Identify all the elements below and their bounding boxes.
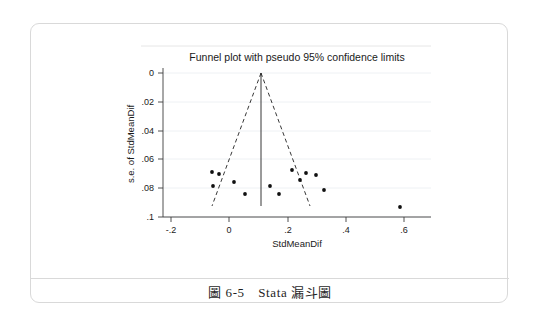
y-tick-label: .04: [141, 126, 154, 136]
y-tick-label: .08: [141, 183, 154, 193]
gridlines: [163, 73, 431, 217]
data-point: [304, 171, 308, 175]
x-tick-label: .2: [284, 225, 292, 235]
data-point: [268, 184, 272, 188]
data-point: [211, 184, 215, 188]
x-tick-label: .6: [400, 225, 408, 235]
figure-caption: 圖 6-5 Stata 漏斗圖: [31, 282, 509, 301]
caption-divider: [31, 278, 509, 279]
y-axis-title: s.e. of StdMeanDif: [125, 105, 136, 184]
data-point: [217, 172, 221, 176]
y-tick-label: .06: [141, 154, 154, 164]
data-point: [243, 192, 247, 196]
data-point: [290, 168, 294, 172]
x-tick-label: -.2: [166, 225, 177, 235]
x-tick-label: .4: [342, 225, 350, 235]
funnel-plot-figure: 0 .02 .04 .06 .08 .1 -.2 0 .2 .4 .6 StdM…: [31, 24, 509, 252]
y-tick-label: 0: [149, 68, 154, 78]
data-point: [398, 205, 402, 209]
y-axis-tick-labels: 0 .02 .04 .06 .08 .1: [141, 68, 154, 222]
data-point: [298, 178, 302, 182]
data-point: [232, 180, 236, 184]
x-axis-tick-labels: -.2 0 .2 .4 .6: [166, 225, 408, 235]
plot-title: Funnel plot with pseudo 95% confidence l…: [189, 51, 404, 63]
data-point: [277, 192, 281, 196]
data-point: [314, 173, 318, 177]
y-tick-label: .02: [141, 97, 154, 107]
data-point: [322, 188, 326, 192]
y-tick-label: .1: [146, 212, 154, 222]
x-tick-label: 0: [226, 225, 231, 235]
x-axis-title: StdMeanDif: [272, 238, 322, 249]
funnel-plot-svg: 0 .02 .04 .06 .08 .1 -.2 0 .2 .4 .6 StdM…: [31, 24, 509, 252]
confidence-limit-left-line: [212, 73, 261, 206]
y-axis-ticks: [158, 73, 163, 217]
x-axis-ticks: [171, 217, 404, 222]
figure-card: 0 .02 .04 .06 .08 .1 -.2 0 .2 .4 .6 StdM…: [30, 23, 508, 303]
data-point: [210, 170, 214, 174]
